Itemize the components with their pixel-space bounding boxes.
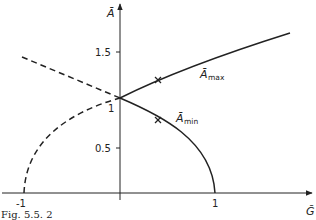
x-tick-label-neg-1: -1 [16,198,26,209]
y-tick-label-1: 1 [108,103,114,114]
x-axis-label: Ḡ [306,205,315,218]
y-tick-label-1-5: 1.5 [95,47,111,58]
figure-caption: Fig. 5.5. 2 [1,209,53,220]
x-tick-label-1: 1 [212,198,218,209]
y-tick-label-0-5: 0.5 [95,143,111,154]
cross-marker-min [155,117,161,123]
svg-text:min: min [184,117,198,126]
figure-canvas: Ā Ḡ 1.5 1 0.5 -1 1 Ā max Ā min Fig. 5.5.… [0,0,316,220]
label-a-min: Ā min [175,112,198,126]
svg-text:Ā: Ā [199,68,208,81]
y-ticks [116,52,120,148]
curve-a-min [120,98,215,193]
y-axis-label: Ā [106,7,115,20]
svg-text:Ā: Ā [175,112,184,125]
svg-text:max: max [208,73,225,82]
label-a-max: Ā max [199,68,225,82]
curve-a-max-extension [22,57,120,98]
curve-a-max [120,33,290,98]
